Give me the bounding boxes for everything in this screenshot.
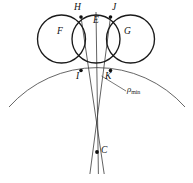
right-circle [107,15,155,63]
vertex-dot-h [79,15,83,19]
figure-canvas [0,0,193,183]
ray-c-to-e [96,12,98,174]
point-label-k: K [105,72,111,82]
point-label-h: H [74,3,81,13]
vertex-dot-i [79,69,83,73]
point-label-g: G [124,27,131,37]
point-label-c: C [101,146,107,156]
geometry-figure: H E J F G I K C ρmin [0,0,193,183]
rho-subscript: min [131,89,140,95]
point-label-f: F [57,27,63,37]
point-label-i: I [76,72,79,82]
vertex-dot-c [95,150,99,154]
point-label-e: E [93,16,99,26]
point-label-j: J [112,3,116,13]
rho-min-label: ρmin [127,85,140,94]
vertex-dot-j [109,15,113,19]
